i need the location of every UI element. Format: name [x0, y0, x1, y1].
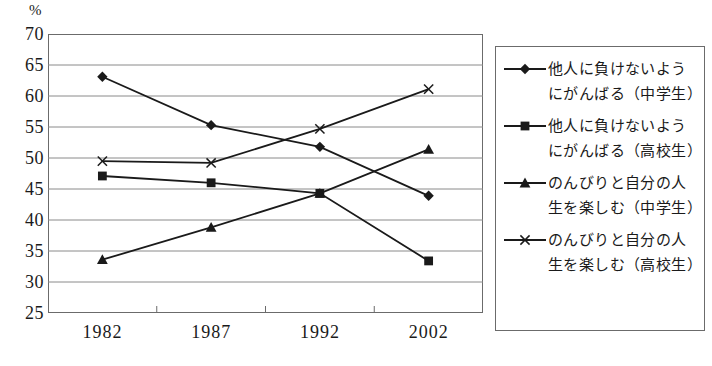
y-axis-tick-label: 60 [8, 87, 44, 105]
line-chart: % 70656055504540353025 1982198719922002 … [0, 0, 712, 366]
data-point-marker-triangle [423, 144, 434, 154]
data-point-marker-square [98, 172, 107, 181]
y-axis-tick-label: 40 [8, 211, 44, 229]
y-axis-tick-label: 55 [8, 118, 44, 136]
y-axis-tick-label: 65 [8, 56, 44, 74]
series-line [102, 89, 428, 163]
legend-marker-diamond-icon [502, 58, 548, 80]
data-point-marker-diamond [206, 120, 216, 130]
y-axis-tick-label: 25 [8, 304, 44, 322]
y-axis-tick-label: 30 [8, 273, 44, 291]
series-line [102, 149, 428, 259]
data-point-marker-diamond [423, 191, 433, 201]
plot-series-layer [48, 34, 483, 313]
data-point-marker-diamond [520, 64, 530, 74]
data-point-marker-cross [424, 85, 433, 94]
legend-item-0[interactable]: 他人に負けないよう にがんばる（中学生） [502, 57, 698, 107]
legend-label: のんびりと自分の人 生を楽しむ（高校生） [548, 228, 698, 278]
x-axis-tick-label: 1987 [171, 322, 251, 342]
legend-label: 他人に負けないよう にがんばる（中学生） [548, 57, 698, 107]
gridlines [48, 65, 483, 282]
x-axis-tick-label: 2002 [389, 322, 469, 342]
data-point-marker-diamond [315, 142, 325, 152]
legend-label: 他人に負けないよう にがんばる（高校生） [548, 114, 698, 164]
y-axis-tick-label: 70 [8, 25, 44, 43]
y-axis-tick-label: 45 [8, 180, 44, 198]
x-axis-tick-marks [157, 306, 375, 313]
legend-marker-cross-icon [502, 229, 548, 251]
legend-label: のんびりと自分の人 生を楽しむ（中学生） [548, 171, 698, 221]
legend-marker-square-icon [502, 115, 548, 137]
legend-item-2[interactable]: のんびりと自分の人 生を楽しむ（中学生） [502, 171, 698, 221]
series-line [102, 77, 428, 196]
data-point-marker-square [521, 122, 530, 131]
data-point-marker-square [207, 178, 216, 187]
y-axis-tick-labels: 70656055504540353025 [0, 0, 44, 366]
x-axis-tick-label: 1992 [280, 322, 360, 342]
data-point-marker-square [424, 257, 433, 266]
legend-item-3[interactable]: のんびりと自分の人 生を楽しむ（高校生） [502, 228, 698, 278]
y-axis-tick-label: 35 [8, 242, 44, 260]
chart-legend: 他人に負けないよう にがんばる（中学生）他人に負けないよう にがんばる（高校生）… [495, 46, 705, 331]
y-axis-tick-label: 50 [8, 149, 44, 167]
data-point-marker-cross [315, 124, 324, 133]
x-axis-tick-label: 1982 [62, 322, 142, 342]
legend-item-1[interactable]: 他人に負けないよう にがんばる（高校生） [502, 114, 698, 164]
data-series-0 [97, 72, 434, 201]
legend-marker-triangle-icon [502, 172, 548, 194]
data-point-marker-diamond [97, 72, 107, 82]
data-series-group [97, 72, 434, 266]
clipped-chart-title [186, 0, 526, 3]
